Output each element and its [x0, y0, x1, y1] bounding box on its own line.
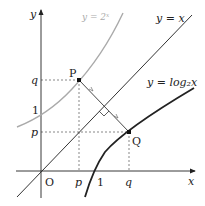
y-tick-q: q [31, 74, 38, 87]
point-p [77, 78, 81, 82]
x-tick-1: 1 [97, 176, 104, 189]
y-axis-label: y [29, 8, 37, 21]
identity-line-label: y = x [155, 12, 185, 25]
x-tick-q: q [125, 176, 132, 189]
right-angle-mark [99, 111, 109, 116]
x-tick-p: p [75, 176, 82, 189]
y-tick-1: 1 [32, 104, 39, 117]
exp-curve-label: y = 2ˣ [81, 12, 110, 22]
point-q-label: Q [132, 135, 141, 148]
diagram-canvas: y x O y = 2ˣ y = x y = log₂x P Q q 1 p p… [0, 0, 205, 206]
origin-label: O [45, 176, 54, 189]
log-curve-label: y = log₂x [146, 76, 198, 89]
x-axis-label: x [188, 175, 195, 188]
point-p-label: P [69, 67, 77, 80]
point-q [127, 130, 131, 134]
y-tick-p: p [31, 126, 38, 139]
